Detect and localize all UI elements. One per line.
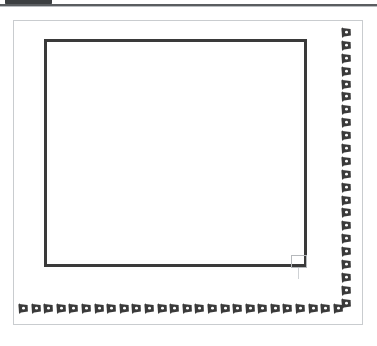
flag-ornament-icon	[81, 303, 92, 314]
flag-ornament-icon	[182, 303, 193, 314]
flag-ornament-icon	[341, 40, 352, 51]
flag-ornament-icon	[341, 246, 352, 257]
flag-ornament-icon	[341, 285, 352, 296]
flag-ornament-icon	[341, 207, 352, 218]
app-chrome-bar	[0, 0, 377, 14]
flag-ornament-icon	[56, 303, 67, 314]
flag-ornament-icon	[207, 303, 218, 314]
flag-ornament-icon	[341, 66, 352, 77]
flag-ornament-icon	[94, 303, 105, 314]
flag-ornament-icon	[341, 27, 352, 38]
flag-ornament-icon	[220, 303, 231, 314]
flag-ornament-icon	[341, 53, 352, 64]
flag-ornament-icon	[341, 79, 352, 90]
flag-ornament-icon	[341, 182, 352, 193]
flag-ornament-icon	[144, 303, 155, 314]
flag-ornament-icon	[341, 272, 352, 283]
flag-ornament-icon	[308, 303, 319, 314]
flag-ornament-icon	[169, 303, 180, 314]
flag-ornament-icon	[341, 143, 352, 154]
flag-ornament-icon	[341, 169, 352, 180]
document-page[interactable]	[13, 20, 363, 325]
flag-ornament-icon	[232, 303, 243, 314]
flag-ornament-icon	[270, 303, 281, 314]
flag-ornament-icon	[341, 156, 352, 167]
flag-ornament-icon	[341, 130, 352, 141]
flag-ornament-icon	[341, 104, 352, 115]
resize-handle[interactable]	[291, 255, 307, 268]
flag-ornament-icon	[131, 303, 142, 314]
flag-ornament-icon	[320, 303, 331, 314]
flag-ornament-icon	[341, 233, 352, 244]
chrome-divider-rule-soft	[0, 6, 377, 7]
flag-ornament-icon	[333, 303, 344, 314]
flag-ornament-icon	[194, 303, 205, 314]
flag-ornament-icon	[31, 303, 42, 314]
flag-ornament-icon	[106, 303, 117, 314]
flag-ornament-icon	[282, 303, 293, 314]
resize-handle-stem	[298, 268, 299, 279]
flag-ornament-icon	[68, 303, 79, 314]
flag-ornament-icon	[295, 303, 306, 314]
flag-ornament-icon	[341, 259, 352, 270]
flag-ornament-icon	[157, 303, 168, 314]
ornamental-border-right	[338, 27, 354, 310]
flag-ornament-icon	[341, 117, 352, 128]
flag-ornament-icon	[257, 303, 268, 314]
flag-ornament-icon	[341, 220, 352, 231]
flag-ornament-icon	[341, 195, 352, 206]
ornamental-border-bottom	[18, 300, 348, 316]
inner-content-frame[interactable]	[44, 39, 307, 267]
flag-ornament-icon	[18, 303, 29, 314]
flag-ornament-icon	[43, 303, 54, 314]
flag-ornament-icon	[341, 91, 352, 102]
flag-ornament-icon	[245, 303, 256, 314]
flag-ornament-icon	[119, 303, 130, 314]
